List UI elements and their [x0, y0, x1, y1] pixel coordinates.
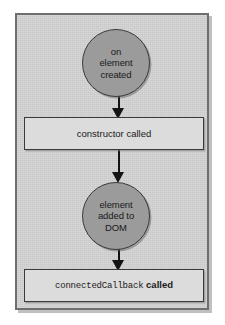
diagram-frame: on element created constructor called el… — [15, 13, 209, 310]
node-constructor-called-label: constructor called — [77, 128, 151, 139]
arrow-constructor-to-added — [112, 148, 125, 184]
node-connected-callback-called: connectedCallback called — [24, 269, 204, 302]
node-on-element-created-label: on element created — [99, 46, 132, 81]
node-element-added-to-dom: element added to DOM — [82, 182, 150, 250]
flowchart-image: on element created constructor called el… — [0, 0, 225, 325]
node-line: element — [98, 199, 134, 211]
node-line: created — [99, 69, 132, 81]
connected-callback-suffix: called — [146, 279, 173, 290]
arrow-shaft — [118, 95, 120, 109]
node-constructor-called: constructor called — [24, 117, 204, 150]
node-line: added to — [98, 210, 134, 222]
arrow-shaft — [118, 148, 120, 173]
node-on-element-created: on element created — [82, 29, 150, 97]
arrow-added-to-connected — [112, 248, 125, 271]
connected-callback-code: connectedCallback — [55, 281, 143, 291]
node-line: on — [99, 46, 132, 58]
arrow-created-to-constructor — [112, 95, 125, 119]
node-line: element — [99, 57, 132, 69]
node-line: DOM — [98, 222, 134, 234]
node-element-added-to-dom-label: element added to DOM — [98, 199, 134, 234]
node-connected-callback-called-label: connectedCallback called — [55, 279, 173, 292]
